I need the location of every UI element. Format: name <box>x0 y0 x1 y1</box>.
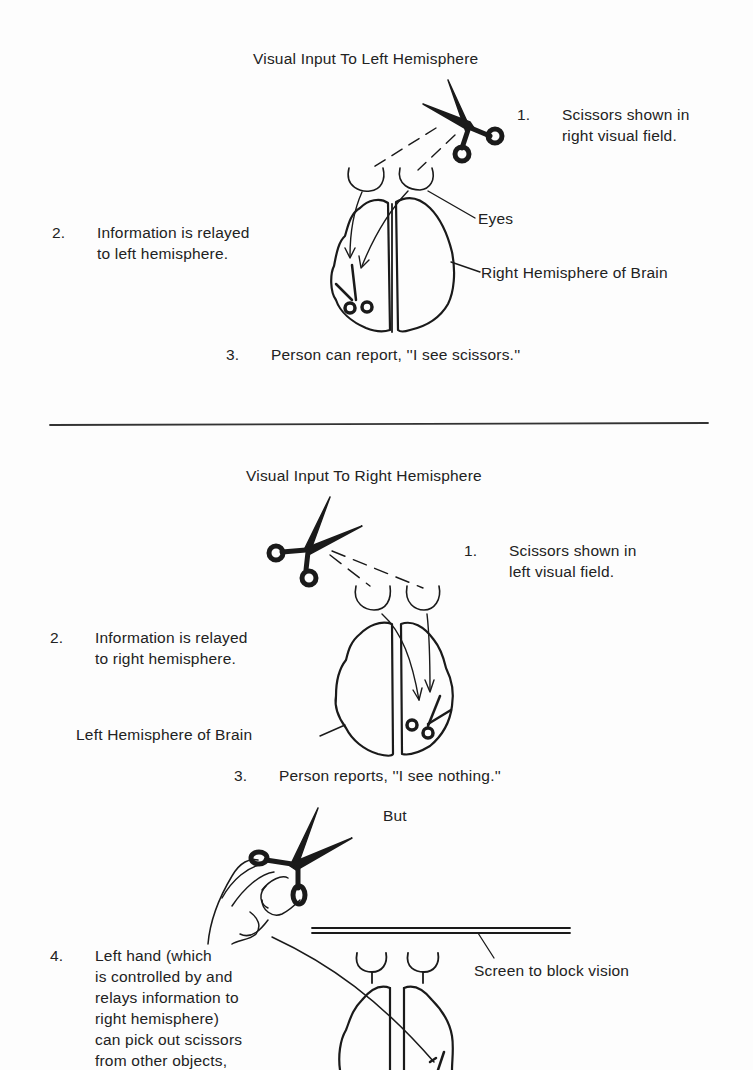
panel2-sight-lines <box>330 551 423 588</box>
step-line: left visual field. <box>509 561 636 582</box>
step-line: right hemisphere) <box>95 1008 242 1029</box>
step-number: 1. <box>517 104 530 125</box>
split-brain-illustration <box>0 0 753 1070</box>
step-number: 3. <box>234 765 247 786</box>
panel3-eyes-icon <box>356 953 438 983</box>
panel2-brain-icon <box>336 623 453 756</box>
section-divider <box>50 423 708 425</box>
block-screen <box>312 928 570 933</box>
step-line: right visual field. <box>562 125 689 146</box>
panel2-pathway-arrows <box>382 614 434 700</box>
step-line: from other objects, <box>95 1050 242 1070</box>
left-hemisphere-label: Left Hemisphere of Brain <box>76 724 252 745</box>
panel2-brain-scissors-icon <box>407 696 451 738</box>
panel1-pathway-arrows <box>345 191 408 268</box>
panel1-hemisphere-leader <box>451 262 480 272</box>
panel3-brain-scissors-icon <box>430 1052 444 1070</box>
step-line: Left hand (which <box>95 945 242 966</box>
step-line: Information is relayed <box>97 222 250 243</box>
panel1-sight-lines <box>372 128 455 170</box>
hand-to-brain-arrow <box>272 937 434 1062</box>
panel1-title: Visual Input To Left Hemisphere <box>253 48 478 69</box>
panel1-scissors-icon <box>423 80 502 161</box>
screen-label: Screen to block vision <box>474 960 629 981</box>
panel1-brain-scissors-icon <box>336 265 372 313</box>
step-line: can pick out scissors <box>95 1029 242 1050</box>
step-line: to right hemisphere. <box>95 648 248 669</box>
step-number: 3. <box>226 344 239 365</box>
step-line: relays information to <box>95 987 242 1008</box>
step-line: Person can report, ''I see scissors.'' <box>271 344 520 365</box>
panel2-eyes-icon <box>355 586 439 610</box>
step-line: is controlled by and <box>95 966 242 987</box>
panel2-title: Visual Input To Right Hemisphere <box>246 465 482 486</box>
step-number: 4. <box>50 945 63 966</box>
eyes-label: Eyes <box>478 208 513 229</box>
screen-label-leader <box>478 933 494 958</box>
step-line: Person reports, ''I see nothing.'' <box>279 765 501 786</box>
but-connector: But <box>383 805 407 826</box>
step-line: to left hemisphere. <box>97 243 250 264</box>
step-line: Scissors shown in <box>509 540 636 561</box>
panel2-scissors-icon <box>269 497 362 585</box>
panel2-hemisphere-leader <box>320 725 345 736</box>
step-number: 1. <box>464 540 477 561</box>
step-number: 2. <box>50 627 63 648</box>
step-line: Information is relayed <box>95 627 248 648</box>
right-hemisphere-label: Right Hemisphere of Brain <box>481 262 668 283</box>
panel1-eyes-icon <box>348 168 433 191</box>
hand-scissors-icon <box>251 808 352 904</box>
hand-icon <box>208 860 300 944</box>
step-line: Scissors shown in <box>562 104 689 125</box>
step-number: 2. <box>52 222 65 243</box>
